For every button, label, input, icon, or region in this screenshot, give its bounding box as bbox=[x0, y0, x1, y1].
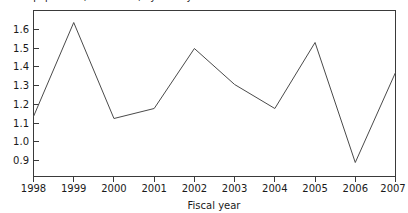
x-axis-tick-labels: 1998 1999 2000 2001 2002 2003 2004 2005 … bbox=[21, 183, 406, 194]
y-tick-label: 1.2 bbox=[13, 99, 29, 110]
plot-frame bbox=[34, 11, 396, 177]
x-axis-ticks bbox=[34, 177, 396, 182]
x-tick-label: 2007 bbox=[380, 183, 405, 194]
y-axis-tick-labels: 1.6 1.5 1.4 1.3 1.2 1.1 1.0 0.9 bbox=[13, 24, 29, 166]
x-tick-label: 2005 bbox=[302, 183, 327, 194]
chart-figure: Total population, in millions, by fiscal… bbox=[0, 0, 408, 213]
y-tick-label: 1.0 bbox=[13, 136, 29, 147]
line-chart-plot: 1.6 1.5 1.4 1.3 1.2 1.1 1.0 0.9 1998 199… bbox=[0, 0, 408, 213]
x-axis-title: Fiscal year bbox=[188, 200, 242, 211]
x-tick-label: 2002 bbox=[182, 183, 207, 194]
x-tick-label: 2001 bbox=[141, 183, 166, 194]
x-tick-label: 1999 bbox=[61, 183, 86, 194]
y-tick-label: 1.4 bbox=[13, 61, 29, 72]
data-series-line bbox=[34, 23, 396, 163]
y-tick-label: 1.6 bbox=[13, 24, 29, 35]
x-tick-label: 2006 bbox=[343, 183, 368, 194]
x-tick-label: 2004 bbox=[262, 183, 287, 194]
x-tick-label: 2000 bbox=[101, 183, 126, 194]
y-tick-label: 0.9 bbox=[13, 155, 29, 166]
x-tick-label: 1998 bbox=[21, 183, 46, 194]
x-tick-label: 2003 bbox=[222, 183, 247, 194]
y-tick-label: 1.1 bbox=[13, 118, 29, 129]
y-tick-label: 1.3 bbox=[13, 80, 29, 91]
y-tick-label: 1.5 bbox=[13, 43, 29, 54]
y-axis-ticks bbox=[34, 30, 39, 161]
